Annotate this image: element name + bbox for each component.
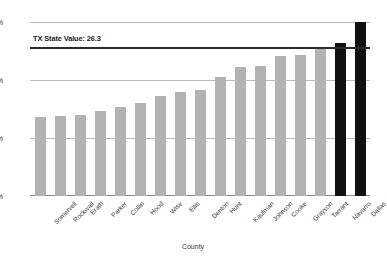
bar-johnson[interactable] [255,66,266,197]
bar-parker[interactable] [95,111,106,196]
y-tick-label-10: 10% [0,134,3,143]
bar-somervell[interactable] [35,117,46,196]
bar-wise[interactable] [155,96,166,196]
bar-grayson[interactable] [295,55,306,196]
bar-rockwall[interactable] [55,116,66,196]
bar-kaufman[interactable] [235,67,246,196]
bar-navarro[interactable] [335,43,346,196]
y-tick-label-20: 20% [0,76,3,85]
y-tick-label-30: 30% [0,18,3,27]
bar-erath[interactable] [75,115,86,196]
bar-denton[interactable] [195,90,206,196]
bar-cooke[interactable] [275,56,286,196]
bar-hunt[interactable] [215,77,226,196]
bar-ellis[interactable] [175,92,186,196]
bar-hood[interactable] [135,103,146,196]
reference-line [30,47,370,49]
x-axis-title: County [0,243,386,250]
bar-tarrant[interactable] [315,48,326,196]
y-tick-label-0: 0% [0,192,3,201]
bar-collin[interactable] [115,107,126,196]
reference-line-label: TX State Value: 26.3 [33,34,101,43]
